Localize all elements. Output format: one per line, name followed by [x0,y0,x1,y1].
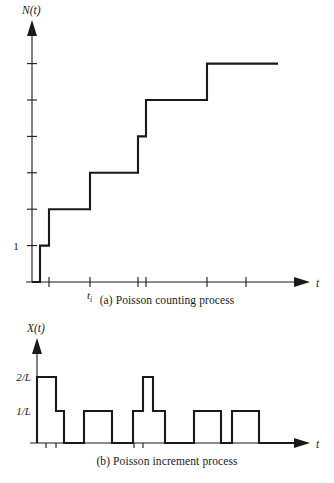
panel-b-y-tick-label-1L: 1/L [16,405,31,417]
panel-b-y-axis-label: X(t) [26,322,45,335]
panel-b-x-axis-label: t [316,438,320,450]
figure-container: N(t) t 1 ti X(t) t 1/L 2/L (a) P [0,0,334,483]
panel-b-pulse-curve [37,377,295,443]
panel-a-caption: (a) Poisson counting process [0,294,334,306]
panel-b-x-axis-arrowhead [294,438,310,448]
panel-b-y-tick-label-2L: 2/L [16,371,31,383]
panel-b-caption: (b) Poisson increment process [0,455,334,467]
panel-b-y-axis-arrowhead [32,338,42,354]
poisson-increment-process-chart: X(t) t 1/L 2/L [0,0,334,483]
